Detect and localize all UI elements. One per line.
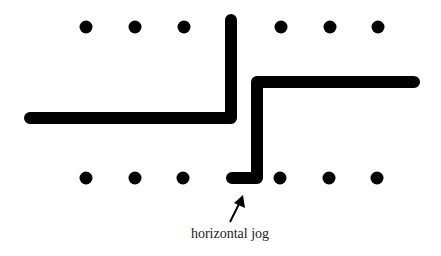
routing-diagram: horizontal jog [0, 0, 441, 256]
right-wire [232, 82, 414, 178]
pin-dot [371, 172, 384, 185]
pin-dot [129, 21, 142, 34]
pin-dot [324, 21, 337, 34]
pin-dot [80, 172, 93, 185]
pin-dot [177, 172, 190, 185]
wires [30, 20, 414, 178]
pin-dot [178, 21, 191, 34]
arrow-icon [230, 195, 245, 222]
diagram-svg [0, 0, 441, 256]
pin-dot [323, 172, 336, 185]
pin-dot [275, 21, 288, 34]
pin-dot [129, 172, 142, 185]
left-wire [30, 20, 231, 118]
jog-label: horizontal jog [150, 226, 310, 242]
pin-dot [372, 21, 385, 34]
pin-dot [274, 172, 287, 185]
pin-dot [80, 21, 93, 34]
